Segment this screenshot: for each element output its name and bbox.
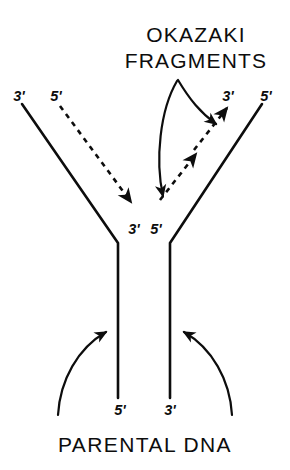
strand-okazaki-fragment-lower	[160, 154, 196, 200]
label-right-branch-solid: 5'	[260, 88, 272, 104]
annotation-arrow-parental-left	[58, 332, 106, 415]
annotation-arrow-okazaki-left	[159, 81, 177, 196]
label-left-branch-solid: 3'	[13, 88, 25, 104]
label-fork-right: 5'	[150, 221, 162, 237]
label-left-branch-dashed: 5'	[50, 88, 62, 104]
strand-right-parental-template	[170, 104, 262, 398]
title-line-1: OKAZAKI	[146, 23, 245, 46]
label-stem-right: 3'	[164, 402, 176, 418]
annotation-arrow-okazaki-right	[178, 80, 216, 124]
strand-okazaki-fragment-upper	[194, 108, 227, 150]
strand-left-parental-template	[22, 104, 118, 398]
replication-fork-diagram: OKAZAKI FRAGMENTS 3' 5' 3' 5' 3' 5' 5' 3…	[0, 0, 290, 470]
strand-left-leading-daughter	[60, 106, 131, 202]
figure-canvas: OKAZAKI FRAGMENTS 3' 5' 3' 5' 3' 5' 5' 3…	[0, 0, 290, 470]
label-stem-left: 5'	[114, 402, 126, 418]
annotation-arrow-parental-right	[184, 332, 232, 415]
label-right-branch-dashed: 3'	[222, 88, 234, 104]
caption-parental-dna: PARENTAL DNA	[58, 433, 232, 456]
label-fork-left: 3'	[128, 221, 140, 237]
title-line-2: FRAGMENTS	[125, 49, 268, 72]
